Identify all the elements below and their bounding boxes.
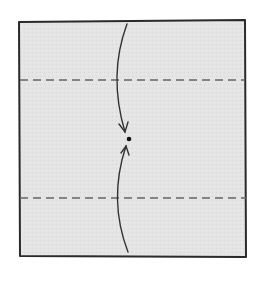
- target-point: [127, 137, 132, 142]
- paper-square: [19, 20, 246, 257]
- origami-diagram: [0, 0, 260, 284]
